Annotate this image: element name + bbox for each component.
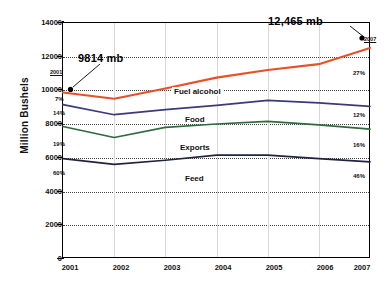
- end-pct-exports: 16%: [353, 142, 365, 148]
- end-pct-fuel-alcohol: 27%: [353, 70, 365, 76]
- chart-container: Million Bushels 14000 12000 10000 8000 6…: [0, 0, 385, 283]
- y-tick-2000: 2000: [22, 220, 62, 229]
- y-tick-12000: 12000: [22, 51, 62, 60]
- annotation-12465mb: 12,465 mb: [268, 15, 323, 27]
- y-tick-0: 0: [22, 254, 62, 263]
- line-exports: [63, 121, 370, 137]
- y-tick-4000: 4000: [22, 186, 62, 195]
- y-tick-6000: 6000: [22, 152, 62, 161]
- line-feed: [63, 155, 370, 164]
- start-pct-exports: 19%: [53, 141, 65, 147]
- start-pct-feed: 60%: [53, 170, 65, 176]
- start-pct-food: 14%: [53, 110, 65, 116]
- annotation-year-2001: 2001: [50, 69, 62, 75]
- y-tick-10000: 10000: [22, 85, 62, 94]
- series-label-fuel-alcohol: Fuel alcohol: [172, 87, 223, 96]
- end-pct-feed: 46%: [353, 173, 365, 179]
- series-label-feed: Feed: [183, 174, 206, 183]
- annotation-year-2007: 2007: [364, 36, 376, 42]
- start-pct-fuel-alcohol: 7%: [55, 96, 64, 102]
- y-tick-8000: 8000: [22, 119, 62, 128]
- y-tick-14000: 14000: [22, 18, 62, 27]
- x-tick-2007: 2007: [332, 263, 385, 272]
- series-label-exports: Exports: [178, 143, 212, 152]
- end-pct-food: 12%: [353, 112, 365, 118]
- line-food: [63, 100, 370, 114]
- annotation-9814mb: 9814 mb: [78, 52, 123, 64]
- series-label-food: Food: [183, 115, 207, 124]
